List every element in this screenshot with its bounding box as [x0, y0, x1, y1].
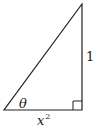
angle-theta-label: θ: [19, 97, 27, 110]
base-exponent: 2: [45, 112, 50, 121]
triangle-outline: [4, 4, 82, 110]
right-angle-marker: [73, 101, 82, 110]
base-variable: x: [37, 113, 44, 128]
vertical-side-label: 1: [86, 50, 94, 63]
right-triangle-diagram: θ 1 x2: [0, 0, 99, 132]
base-side-label: x2: [37, 113, 50, 127]
